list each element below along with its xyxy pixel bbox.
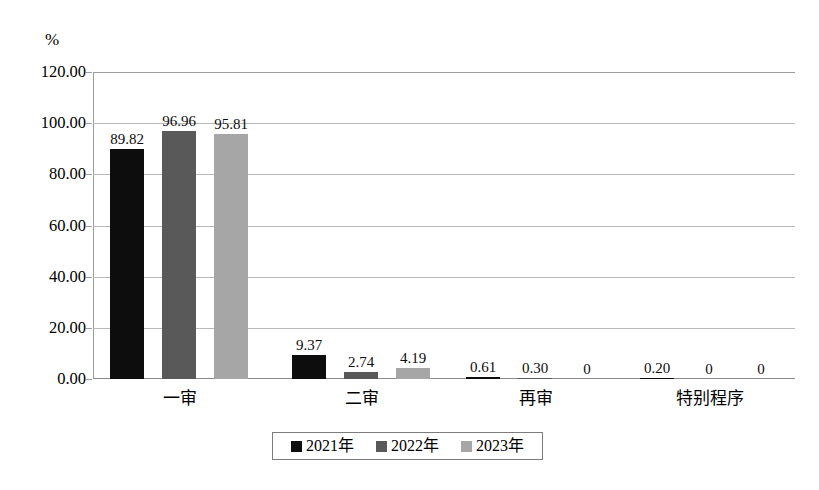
bar [214, 134, 248, 379]
bar-value-label: 0 [679, 362, 739, 377]
bar-value-label: 89.82 [97, 132, 157, 147]
y-tick-label-80: 80.00 [6, 166, 86, 183]
legend-item-2021: 2021年 [291, 438, 354, 454]
bar [110, 149, 144, 379]
y-axis: 120.00 100.00 80.00 60.00 40.00 20.00 0.… [0, 72, 86, 379]
y-tick-label-100: 100.00 [6, 115, 86, 132]
legend-item-2023: 2023年 [461, 438, 524, 454]
y-axis-unit-label: % [45, 31, 59, 48]
legend-item-2022: 2022年 [376, 438, 439, 454]
bar-value-label: 0.20 [627, 361, 687, 376]
x-axis-baseline [93, 378, 795, 379]
y-tick-label-60: 60.00 [6, 217, 86, 234]
bar-value-label: 9.37 [279, 338, 339, 353]
y-tick-mark [86, 72, 92, 73]
legend-label: 2022年 [391, 438, 439, 454]
gridline-60 [93, 226, 795, 227]
y-tick-mark [86, 277, 92, 278]
bar [640, 378, 674, 379]
y-tick-mark [86, 379, 92, 380]
gridline-80 [93, 174, 795, 175]
gridline-20 [93, 328, 795, 329]
bar-value-label: 2.74 [331, 355, 391, 370]
bar [292, 355, 326, 379]
bar [162, 131, 196, 379]
legend-swatch-icon [461, 441, 472, 452]
bar [344, 372, 378, 379]
legend-label: 2023年 [476, 438, 524, 454]
bar-chart: % 120.00 100.00 80.00 60.00 40.00 20.00 … [0, 0, 819, 490]
x-category-label-1: 一审 [110, 390, 250, 407]
bar [466, 377, 500, 379]
bar-value-label: 4.19 [383, 351, 443, 366]
bar-value-label: 0 [557, 362, 617, 377]
bar-value-label: 96.96 [149, 114, 209, 129]
y-tick-mark [86, 174, 92, 175]
legend-label: 2021年 [306, 438, 354, 454]
legend-swatch-icon [376, 441, 387, 452]
y-tick-label-40: 40.00 [6, 268, 86, 285]
gridline-40 [93, 277, 795, 278]
chart-legend: 2021年 2022年 2023年 [272, 432, 543, 460]
x-category-label-4: 特别程序 [630, 390, 790, 407]
bar-value-label: 0.30 [505, 361, 565, 376]
bar [518, 378, 552, 379]
y-tick-mark [86, 123, 92, 124]
y-tick-mark [86, 226, 92, 227]
bar-value-label: 95.81 [201, 117, 261, 132]
bar-value-label: 0 [731, 362, 791, 377]
legend-swatch-icon [291, 441, 302, 452]
y-tick-label-120: 120.00 [6, 64, 86, 81]
y-tick-label-0: 0.00 [6, 371, 86, 388]
bar-value-label: 0.61 [453, 360, 513, 375]
plot-border-top [93, 72, 795, 73]
x-category-label-3: 再审 [466, 390, 606, 407]
y-tick-label-20: 20.00 [6, 320, 86, 337]
bar [396, 368, 430, 379]
x-category-label-2: 二审 [292, 390, 432, 407]
y-tick-mark [86, 328, 92, 329]
